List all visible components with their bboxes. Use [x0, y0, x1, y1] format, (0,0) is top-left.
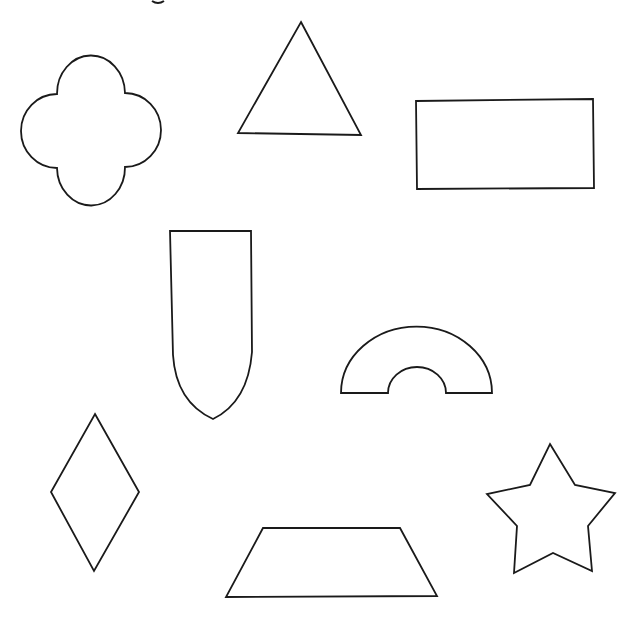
rhombus-shape — [51, 414, 139, 571]
cropped-title-fragment — [152, 1, 164, 3]
triangle-shape — [238, 22, 361, 135]
star-shape — [487, 444, 615, 573]
shield-shape — [170, 231, 252, 419]
trapezoid-shape — [226, 528, 437, 597]
rectangle-shape — [416, 99, 594, 189]
quatrefoil-shape — [21, 55, 161, 205]
half-ring-arch-shape — [341, 327, 492, 393]
shapes-canvas: Outline shapes worksheet — [0, 0, 632, 631]
